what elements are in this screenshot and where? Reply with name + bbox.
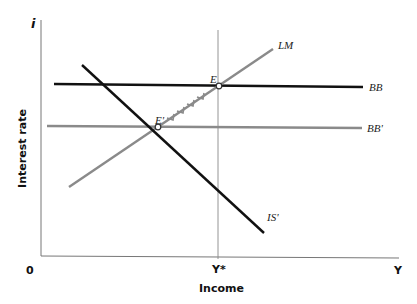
lm-line (69, 49, 273, 187)
bb-label: BB (369, 81, 382, 93)
bb-prime-line (47, 126, 362, 128)
diagram-canvas (0, 0, 417, 304)
y-axis-label: Interest rate (16, 109, 29, 189)
point-e-prime-label: E' (155, 114, 164, 126)
point-e-label: E (210, 73, 217, 85)
x-axis-label: Income (199, 282, 244, 295)
bb-prime-label: BB' (367, 122, 383, 134)
origin-label: 0 (26, 264, 34, 277)
is-prime-line (82, 65, 264, 233)
y-star-label: Y* (212, 263, 226, 276)
lm-label: LM (278, 39, 293, 51)
bb-line (54, 84, 363, 87)
x-axis (41, 256, 399, 258)
point-e (216, 83, 222, 89)
x-axis-symbol: Y (394, 264, 402, 277)
is-prime-label: IS' (267, 211, 279, 223)
y-axis-symbol: i (31, 16, 35, 31)
